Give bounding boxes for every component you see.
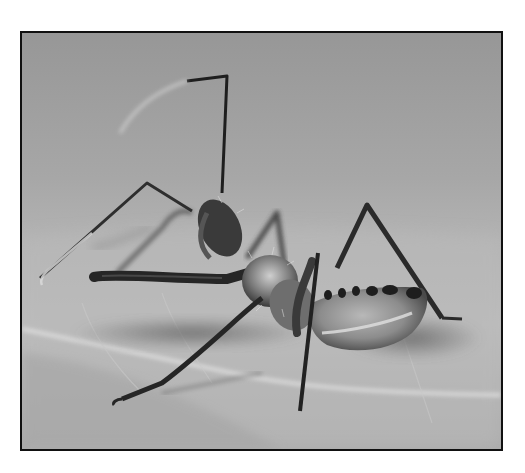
photo-frame (20, 31, 503, 451)
insect-photo (22, 33, 501, 449)
